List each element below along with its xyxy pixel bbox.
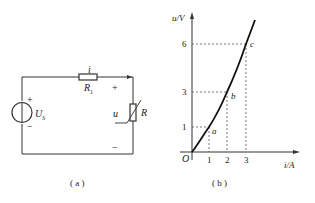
source-minus-sign: − [27, 122, 33, 132]
y-tick-1: 1 [182, 122, 187, 132]
r-plus-sign: + [112, 83, 118, 93]
figure: i R1 + US − + u R − ( a ) u/V i/A O 1 2 … [0, 0, 315, 203]
current-label: i [88, 65, 91, 75]
point-b-label: b [231, 91, 236, 101]
current-arrow-icon [127, 75, 132, 79]
y-axis-arrow-icon [190, 12, 194, 19]
r1-subscript: 1 [90, 89, 93, 95]
graph-axes [180, 16, 296, 160]
resistor-r1-label: R1 [84, 83, 93, 97]
voltage-label: u [113, 109, 118, 119]
guide-lines [192, 44, 246, 152]
x-axis-arrow-icon [293, 150, 300, 154]
x-tick-1: 1 [207, 155, 212, 165]
caption-b: ( b ) [212, 178, 227, 188]
caption-a: ( a ) [70, 178, 85, 188]
point-c-label: c [250, 39, 254, 49]
ui-curve [192, 20, 255, 152]
x-tick-2: 2 [225, 155, 230, 165]
origin-label: O [182, 154, 189, 164]
y-axis-label: u/V [172, 13, 185, 23]
source-label: US [35, 109, 45, 123]
r-minus-sign: − [112, 143, 118, 153]
x-tick-3: 3 [244, 155, 249, 165]
nonlinear-mark-icon [115, 100, 141, 123]
resistor-label: R [141, 108, 147, 118]
x-axis-label: i/A [284, 160, 295, 170]
source-plus-sign: + [27, 95, 33, 105]
y-tick-3: 3 [182, 87, 187, 97]
point-a-label: a [212, 126, 217, 136]
us-subscript: S [42, 115, 45, 121]
figure-drawing [0, 0, 315, 203]
y-tick-6: 6 [182, 39, 187, 49]
